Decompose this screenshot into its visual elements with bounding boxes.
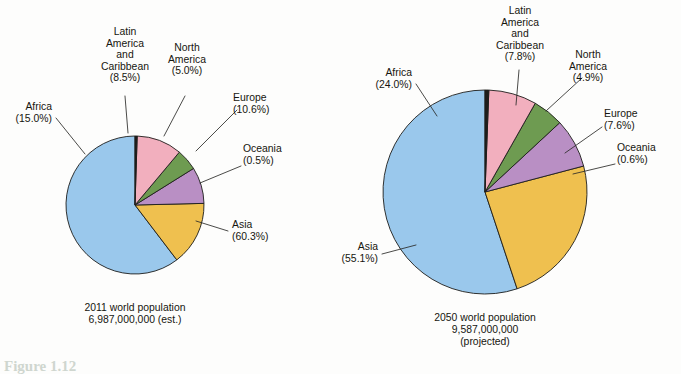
slice-label-north-america: NorthAmerica(4.9%) (569, 49, 607, 83)
chart-caption-line: 9,587,000,000 (452, 324, 519, 335)
slice-label-north-america: NorthAmerica(5.0%) (168, 42, 206, 76)
slice-label-line: Latin (509, 5, 532, 16)
slice-label-line: America (168, 54, 206, 65)
slice-label-line: (8.5%) (110, 72, 141, 83)
slice-label-line: Oceania (617, 142, 656, 153)
slice-label-line: Asia (358, 241, 378, 252)
slice-label-line: Asia (232, 219, 252, 230)
slice-label-line: North (575, 49, 601, 60)
slice-label-africa: Africa(24.0%) (376, 67, 413, 90)
slice-label-europe: Europe(7.6%) (604, 108, 638, 131)
slice-label-asia: Asia(55.1%) (342, 241, 379, 264)
slice-label-line: (7.6%) (604, 120, 635, 131)
slice-label-line: (0.6%) (617, 154, 648, 165)
slice-label-line: America (501, 17, 539, 28)
pie-chart-2050: Asia(55.1%)Africa(24.0%)LatinAmericaandC… (342, 5, 656, 347)
slice-label-oceania: Oceania(0.5%) (243, 143, 282, 166)
slice-label-line: (24.0%) (376, 79, 412, 90)
slice-label-line: Caribbean (496, 40, 544, 51)
slice-label-latin-america-and-caribbean: LatinAmericaandCaribbean(8.5%) (101, 26, 149, 83)
slice-label-latin-america-and-caribbean: LatinAmericaandCaribbean(7.8%) (496, 5, 544, 62)
chart-caption-line: 6,987,000,000 (est.) (88, 314, 181, 325)
slice-label-line: Latin (114, 26, 137, 37)
leader-line-africa (56, 118, 85, 154)
chart-caption-line: 2011 world population (85, 302, 186, 313)
chart-caption-line: 2050 world population (434, 312, 536, 323)
population-pie-figure: Asia(60.3%)Africa(15.0%)LatinAmericaandC… (0, 0, 681, 374)
chart-caption-2011: 2011 world population6,987,000,000 (est.… (85, 302, 186, 325)
slice-label-line: (5.0%) (172, 65, 203, 76)
chart-caption-line: (projected) (460, 336, 510, 347)
slice-label-line: North (174, 42, 200, 53)
pie-chart-2011: Asia(60.3%)Africa(15.0%)LatinAmericaandC… (16, 26, 282, 325)
pie-slices (383, 90, 587, 294)
charts-layer: Asia(60.3%)Africa(15.0%)LatinAmericaandC… (16, 5, 656, 347)
slice-label-line: America (106, 38, 144, 49)
slice-label-europe: Europe(10.6%) (233, 92, 269, 115)
slice-label-line: Africa (385, 67, 412, 78)
slice-label-line: Europe (233, 92, 267, 103)
slice-label-line: Europe (604, 108, 638, 119)
slice-label-line: (7.8%) (505, 51, 536, 62)
slice-label-line: and (511, 28, 529, 39)
chart-caption-2050: 2050 world population9,587,000,000(proje… (434, 312, 536, 347)
slice-label-africa: Africa(15.0%) (16, 101, 53, 124)
slice-label-asia: Asia(60.3%) (232, 219, 268, 242)
slice-label-line: (55.1%) (342, 253, 378, 264)
figure-caption-partial: Figure 1.12 (4, 358, 76, 374)
slice-label-line: (0.5%) (243, 155, 274, 166)
pie-slices (66, 136, 204, 274)
slice-label-line: Africa (25, 101, 52, 112)
slice-label-line: (10.6%) (233, 104, 269, 115)
slice-label-line: (60.3%) (232, 231, 268, 242)
leader-line-oceania (200, 166, 241, 183)
leader-line-latin-america-and-caribbean (125, 96, 128, 133)
slice-label-line: Caribbean (101, 61, 149, 72)
slice-label-line: Oceania (243, 143, 282, 154)
figure-container: Asia(60.3%)Africa(15.0%)LatinAmericaandC… (0, 0, 681, 374)
slice-label-line: America (569, 61, 607, 72)
leader-line-north-america (164, 96, 185, 136)
slice-label-oceania: Oceania(0.6%) (617, 142, 656, 165)
slice-label-line: and (116, 49, 134, 60)
leader-line-europe (196, 110, 237, 151)
slice-label-line: (15.0%) (16, 113, 52, 124)
slice-label-line: (4.9%) (573, 72, 604, 83)
